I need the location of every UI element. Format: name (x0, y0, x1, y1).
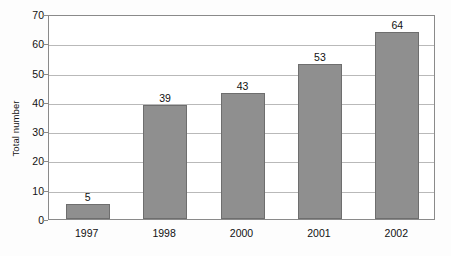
y-axis-tick-label: 50 (22, 68, 44, 79)
bar (221, 93, 265, 219)
bar-value-label: 39 (159, 93, 171, 104)
y-axis-tick-label: 10 (22, 185, 44, 196)
y-axis-tick-labels: 010203040506070 (22, 0, 44, 256)
y-axis-tick-mark (43, 191, 48, 192)
x-axis-tick-label: 2002 (385, 228, 408, 239)
bar (143, 105, 187, 219)
y-axis-tick-mark (43, 15, 48, 16)
bar-chart-figure: Total number 010203040506070 539435364 1… (0, 0, 451, 256)
y-axis-tick-label: 70 (22, 10, 44, 21)
x-axis-tick-label: 1997 (75, 228, 98, 239)
bar (298, 64, 342, 219)
y-axis-tick-label: 30 (22, 127, 44, 138)
x-axis-tick-label: 1998 (152, 228, 175, 239)
y-axis-tick-mark (43, 220, 48, 221)
y-axis-tick-mark (43, 103, 48, 104)
y-axis-tick-label: 20 (22, 156, 44, 167)
y-axis-tick-label: 40 (22, 98, 44, 109)
x-axis-tick-label: 2001 (307, 228, 330, 239)
y-axis-title-text: Total number (10, 100, 21, 156)
x-axis-tick-label: 2000 (230, 228, 253, 239)
y-axis-tick-mark (43, 74, 48, 75)
bar-value-label: 64 (391, 20, 403, 31)
y-axis-tick-mark (43, 132, 48, 133)
bar-value-label: 5 (85, 192, 91, 203)
y-axis-tick-mark (43, 161, 48, 162)
y-axis-title: Total number (8, 88, 22, 168)
bar-value-label: 43 (237, 81, 249, 92)
y-axis-tick-label: 0 (22, 215, 44, 226)
y-axis-tick-label: 60 (22, 39, 44, 50)
bar-value-label: 53 (314, 52, 326, 63)
y-axis-tick-mark (43, 44, 48, 45)
bar (66, 204, 110, 219)
bar (375, 32, 419, 219)
plot-area: 539435364 (48, 15, 435, 220)
